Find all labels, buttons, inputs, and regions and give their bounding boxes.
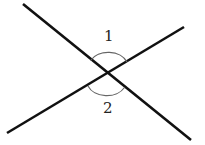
angle-2-label: 2 [103,101,113,116]
line-b [7,27,184,133]
intersecting-lines-diagram [0,0,205,145]
angle-2-arc [88,86,125,96]
angle-1-arc [91,52,128,62]
angle-1-label: 1 [104,29,114,44]
